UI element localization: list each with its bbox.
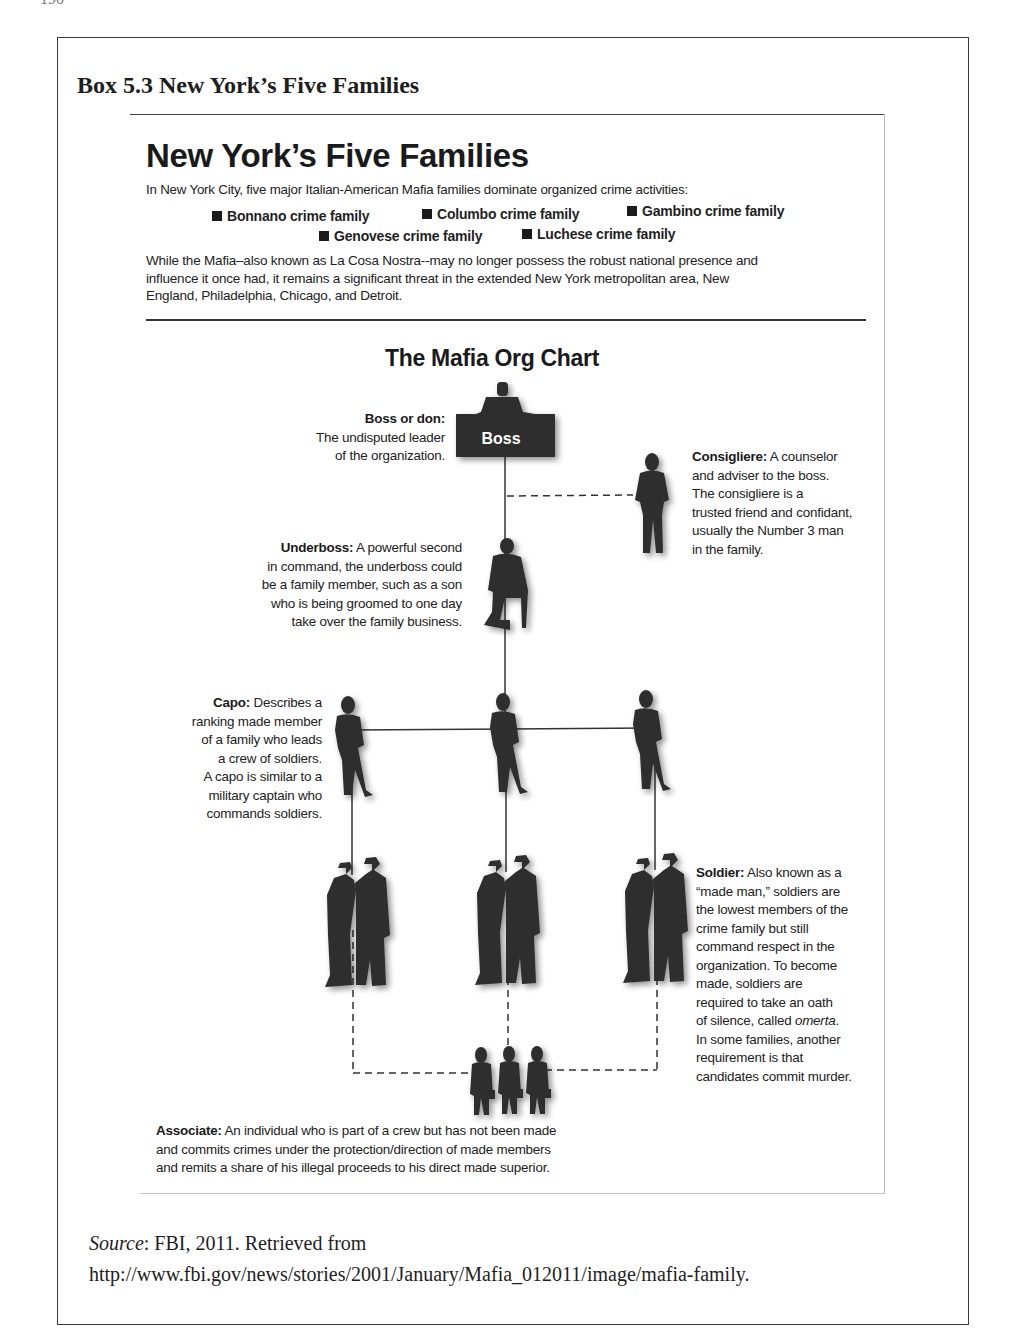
soldier-pair-icon xyxy=(325,857,390,987)
soldier-pair-icon xyxy=(623,853,688,983)
role-label-consigliere: Consigliere: A counselor and adviser to … xyxy=(692,448,892,559)
associates-icon xyxy=(470,1046,551,1115)
role-label-underboss: Underboss: A powerful second in command,… xyxy=(205,539,462,632)
hierarchy-lines xyxy=(352,456,655,875)
boss-box-label: Boss xyxy=(481,430,520,447)
source-citation: Source: FBI, 2011. Retrieved from http:/… xyxy=(89,1228,749,1290)
capo-icon xyxy=(490,693,528,794)
source-url: http://www.fbi.gov/news/stories/2001/Jan… xyxy=(89,1259,749,1290)
role-label-boss: Boss or don: The undisputed leader of th… xyxy=(245,410,445,466)
role-label-associate: Associate: An individual who is part of … xyxy=(156,1122,656,1178)
role-label-capo: Capo: Describes a ranking made member of… xyxy=(150,694,322,824)
capo-icon xyxy=(335,696,373,797)
soldier-pair-icon xyxy=(475,855,540,985)
consigliere-icon xyxy=(635,453,669,553)
capo-icon xyxy=(633,690,671,791)
role-label-soldier: Soldier: Also known as a “made man,” sol… xyxy=(696,864,886,1086)
underboss-icon xyxy=(484,538,528,630)
